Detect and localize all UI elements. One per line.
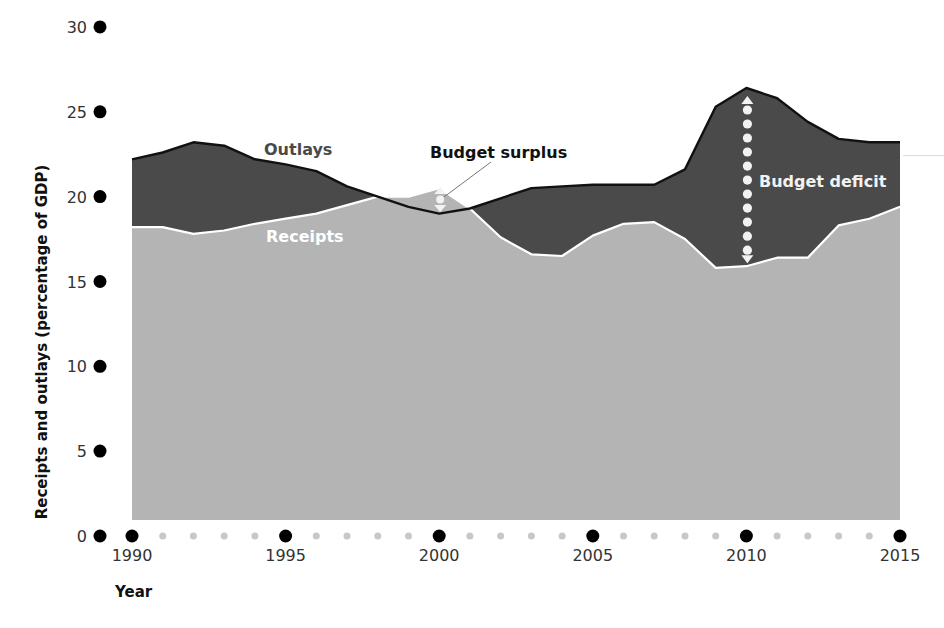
deficit-dot (743, 147, 752, 156)
y-tick-label: 0 (47, 527, 87, 546)
surplus-dot (436, 196, 444, 204)
deficit-dot (743, 119, 752, 128)
deficit-dot (743, 105, 752, 114)
x-tick-dot-major (586, 530, 599, 543)
x-tick-label: 1995 (256, 546, 316, 565)
y-tick-dot (94, 360, 107, 373)
x-tick-dot-minor (221, 533, 228, 540)
x-tick-dot-major (894, 530, 907, 543)
budget-surplus-annotation: Budget surplus (430, 143, 567, 162)
plot-area (0, 0, 944, 628)
budget-deficit-annotation: Budget deficit (759, 172, 886, 191)
y-tick-label: 20 (47, 187, 87, 206)
x-tick-dot-minor (313, 533, 320, 540)
deficit-dot (743, 232, 752, 241)
y-tick-label: 5 (47, 442, 87, 461)
chart: Receipts and outlays (percentage of GDP)… (0, 0, 944, 628)
x-tick-dot-minor (190, 533, 197, 540)
divider-line (903, 155, 944, 156)
x-tick-dot-major (433, 530, 446, 543)
x-tick-label: 2015 (870, 546, 930, 565)
x-axis-title: Year (115, 583, 152, 601)
x-tick-dot-major (126, 530, 139, 543)
deficit-dot (743, 176, 752, 185)
x-tick-dot-minor (344, 533, 351, 540)
y-tick-dot (94, 275, 107, 288)
x-tick-label: 1990 (102, 546, 162, 565)
x-tick-label: 2010 (716, 546, 776, 565)
x-tick-dot-minor (374, 533, 381, 540)
x-tick-dot-minor (866, 533, 873, 540)
x-tick-dot-minor (528, 533, 535, 540)
y-tick-label: 25 (47, 102, 87, 121)
x-tick-dot-major (740, 530, 753, 543)
receipts-annotation: Receipts (266, 227, 344, 246)
x-tick-dot-minor (774, 533, 781, 540)
x-tick-dot-major (279, 530, 292, 543)
x-tick-dot-minor (835, 533, 842, 540)
deficit-dot (743, 204, 752, 213)
y-tick-dot (94, 530, 107, 543)
surplus-leader-line (444, 162, 491, 197)
y-axis-title: Receipts and outlays (percentage of GDP) (33, 165, 51, 520)
y-tick-label: 15 (47, 272, 87, 291)
x-tick-dot-minor (466, 533, 473, 540)
deficit-dot (743, 246, 752, 255)
x-tick-dot-minor (712, 533, 719, 540)
x-tick-dot-minor (804, 533, 811, 540)
x-tick-dot-minor (405, 533, 412, 540)
x-tick-label: 2005 (563, 546, 623, 565)
x-tick-dot-minor (159, 533, 166, 540)
deficit-dot (743, 162, 752, 171)
x-tick-dot-minor (620, 533, 627, 540)
x-tick-dot-minor (682, 533, 689, 540)
x-tick-dot-minor (251, 533, 258, 540)
deficit-dot (743, 133, 752, 142)
deficit-dot (743, 218, 752, 227)
y-tick-dot (94, 20, 107, 33)
deficit-dot (743, 190, 752, 199)
x-tick-dot-minor (497, 533, 504, 540)
x-tick-label: 2000 (409, 546, 469, 565)
y-tick-dot (94, 445, 107, 458)
y-tick-label: 30 (47, 17, 87, 36)
y-tick-label: 10 (47, 357, 87, 376)
outlays-annotation: Outlays (264, 140, 332, 159)
x-tick-dot-minor (559, 533, 566, 540)
y-tick-dot (94, 190, 107, 203)
y-tick-dot (94, 105, 107, 118)
x-tick-dot-minor (651, 533, 658, 540)
